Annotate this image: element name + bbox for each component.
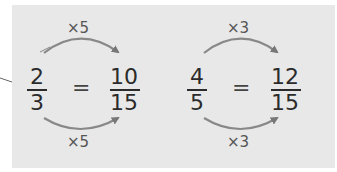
top-multiplier-1: ×5 (67, 19, 89, 37)
numerator-right-1: 10 (107, 64, 141, 89)
arrow-top-1 (44, 39, 118, 53)
arrow-bottom-1 (44, 118, 118, 129)
denominator-left-2: 5 (186, 90, 208, 115)
denominator-left-1: 3 (26, 90, 48, 115)
bottom-multiplier-1: ×5 (67, 133, 89, 151)
equals-sign-2: = (232, 75, 250, 100)
denominator-right-1: 15 (107, 90, 141, 115)
arrow-bottom-2 (204, 118, 277, 129)
leader-line (0, 78, 12, 82)
arrow-top-2 (204, 39, 277, 53)
bottom-multiplier-2: ×3 (227, 133, 249, 151)
numerator-right-2: 12 (268, 64, 302, 89)
equals-sign-1: = (72, 75, 90, 100)
top-multiplier-2: ×3 (227, 19, 249, 37)
numerator-left-2: 4 (186, 64, 208, 89)
numerator-left-1: 2 (26, 64, 48, 89)
denominator-right-2: 15 (268, 90, 302, 115)
